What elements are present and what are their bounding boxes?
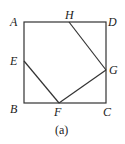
label-a: A <box>9 15 18 29</box>
square-abcd <box>24 22 106 103</box>
geometry-diagram: A H D E G B F C (a) <box>0 0 125 144</box>
label-e: E <box>9 54 18 68</box>
label-b: B <box>10 102 18 116</box>
segment-hg <box>69 22 106 70</box>
label-g: G <box>109 63 118 77</box>
segment-gf <box>59 70 106 103</box>
label-d: D <box>107 15 117 29</box>
label-c: C <box>103 105 112 119</box>
caption: (a) <box>55 123 68 137</box>
segment-fe <box>24 61 59 103</box>
label-f: F <box>53 105 62 119</box>
label-h: H <box>64 8 75 22</box>
